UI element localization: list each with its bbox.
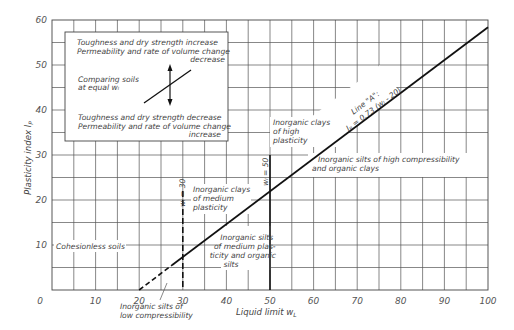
- svg-text:40: 40: [221, 296, 233, 306]
- legend: Toughness and dry strength increase Perm…: [65, 32, 231, 141]
- svg-text:70: 70: [351, 296, 363, 306]
- svg-text:40: 40: [36, 105, 48, 115]
- svg-text:increase: increase: [189, 130, 222, 139]
- svg-text:Toughness and dry strength dec: Toughness and dry strength decrease: [78, 113, 222, 122]
- svg-text:60: 60: [308, 296, 320, 306]
- svg-text:Toughness and dry strength in: Toughness and dry strength increase: [77, 38, 218, 47]
- x-axis-title: Liquid limit wL: [236, 307, 297, 318]
- svg-text:10: 10: [36, 240, 48, 250]
- svg-text:30: 30: [36, 150, 48, 160]
- svg-text:10: 10: [90, 296, 102, 306]
- line-a-dashed-segment: [139, 265, 172, 290]
- y-axis-title: Plasticity index IP: [23, 121, 34, 195]
- svg-text:100: 100: [479, 296, 496, 306]
- label-wl30: wₗ = 30: [178, 179, 187, 207]
- svg-text:50: 50: [264, 296, 276, 306]
- svg-text:80: 80: [395, 296, 407, 306]
- svg-text:90: 90: [439, 296, 451, 306]
- label-silts-low: Inorganic silts of low compressibility: [120, 302, 193, 320]
- svg-text:20: 20: [36, 195, 48, 205]
- svg-text:0: 0: [37, 296, 43, 306]
- plasticity-chart: 0102030405060708090100102030405060 Plast…: [0, 0, 514, 330]
- svg-text:50: 50: [36, 60, 48, 70]
- label-cohesionless: Cohesionless soils: [56, 242, 125, 251]
- svg-text:at equal wₗ: at equal wₗ: [78, 83, 120, 92]
- svg-text:60: 60: [36, 15, 48, 25]
- label-wl50: wₗ = 50: [261, 158, 270, 186]
- svg-text:decrease: decrease: [190, 55, 225, 64]
